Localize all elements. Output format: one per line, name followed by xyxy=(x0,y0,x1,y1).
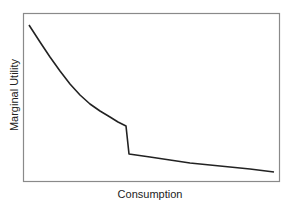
y-axis-label: Marginal Utility xyxy=(7,45,21,145)
marginal-utility-line xyxy=(29,25,274,172)
plot-frame xyxy=(24,14,280,182)
chart-canvas xyxy=(0,0,288,206)
x-axis-label: Consumption xyxy=(100,187,200,201)
